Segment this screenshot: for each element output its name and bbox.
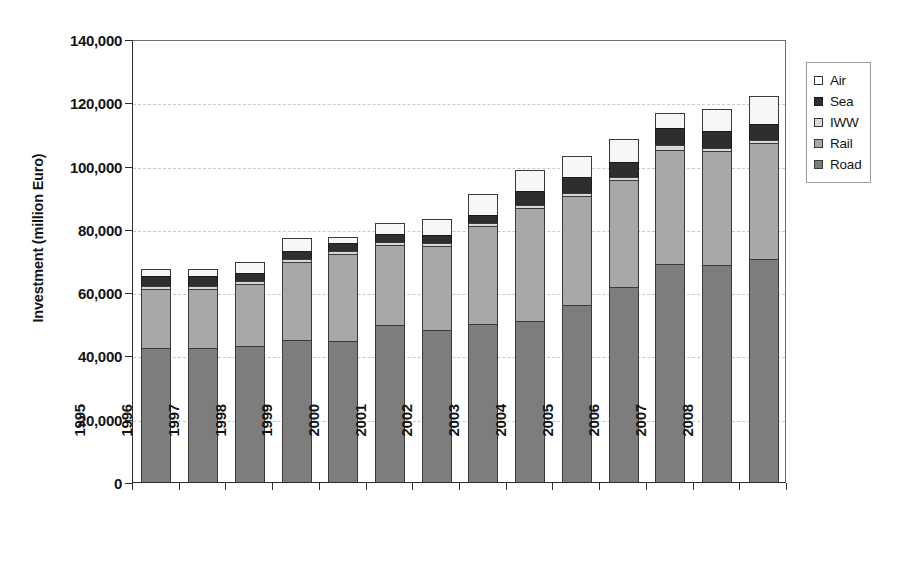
legend-item-sea[interactable]: Sea [814,91,861,112]
bar-segment-rail[interactable] [235,284,265,346]
bar-segment-sea[interactable] [515,191,545,205]
bar-segment-sea[interactable] [655,128,685,145]
x-axis-tick-label-2001: 2001 [352,404,369,494]
bar-segment-sea[interactable] [749,124,779,140]
bar-segment-rail[interactable] [422,246,452,330]
bar-segment-air[interactable] [282,238,312,251]
x-axis-tick-label-2004: 2004 [492,404,509,494]
bar-segment-rail[interactable] [562,196,592,305]
bar-segment-sea[interactable] [609,162,639,176]
bar-segment-rail[interactable] [515,208,545,320]
bar-segment-sea[interactable] [468,215,498,223]
bar-segment-air[interactable] [188,269,218,277]
legend-label: Sea [830,94,853,109]
x-axis-tick-label-2003: 2003 [445,404,462,494]
y-axis-tick-label: 120,000 [0,95,122,112]
chart-legend: AirSeaIWWRailRoad [806,62,871,183]
y-axis-tick-label: 40,000 [0,348,122,365]
x-axis-tick-label-2007: 2007 [632,404,649,494]
bar-segment-air[interactable] [609,139,639,163]
bar-2007[interactable] [702,109,732,482]
bar-segment-air[interactable] [141,269,171,277]
bar-segment-air[interactable] [702,109,732,131]
bar-segment-sea[interactable] [328,243,358,251]
legend-item-iww[interactable]: IWW [814,112,861,133]
bar-segment-rail[interactable] [749,143,779,258]
bar-segment-rail[interactable] [375,245,405,326]
bar-segment-rail[interactable] [468,226,498,324]
x-axis-tick-label-2002: 2002 [398,404,415,494]
y-axis-tick-label: 140,000 [0,32,122,49]
x-axis-tick-label-2006: 2006 [585,404,602,494]
bar-segment-air[interactable] [655,113,685,127]
y-axis-tick-label: 0 [0,475,122,492]
bar-segment-air[interactable] [468,194,498,215]
x-axis-tick-mark [739,483,740,490]
bar-segment-rail[interactable] [188,289,218,348]
bar-segment-sea[interactable] [422,235,452,243]
legend-swatch-air-icon [814,76,823,85]
bar-segment-sea[interactable] [702,131,732,148]
bar-segment-air[interactable] [235,262,265,273]
legend-item-road[interactable]: Road [814,154,861,175]
bar-segment-sea[interactable] [141,276,171,285]
bar-segment-sea[interactable] [562,177,592,193]
legend-swatch-rail-icon [814,139,823,148]
bar-segment-road[interactable] [702,265,732,482]
x-axis-tick-label-1997: 1997 [165,404,182,494]
legend-label: Road [830,157,861,172]
x-axis-tick-mark [786,483,787,490]
y-axis-tick-label: 80,000 [0,221,122,238]
x-axis-tick-label-1999: 1999 [258,404,275,494]
bar-2008[interactable] [749,96,779,482]
x-axis-tick-label-1996: 1996 [118,404,135,494]
bar-segment-rail[interactable] [328,254,358,341]
bar-segment-road[interactable] [749,259,779,482]
bar-segment-rail[interactable] [655,150,685,264]
bar-segment-air[interactable] [515,170,545,191]
bar-segment-sea[interactable] [282,251,312,259]
bar-segment-air[interactable] [562,156,592,177]
legend-swatch-iww-icon [814,118,823,127]
bar-segment-rail[interactable] [141,289,171,348]
bar-segment-rail[interactable] [609,180,639,288]
x-axis-tick-label-2000: 2000 [305,404,322,494]
y-axis-tick-label: 20,000 [0,411,122,428]
bar-segment-rail[interactable] [282,262,312,340]
legend-label: Rail [830,136,852,151]
bar-segment-sea[interactable] [235,273,265,281]
y-axis-tick-label: 100,000 [0,158,122,175]
bar-segment-sea[interactable] [375,234,405,242]
x-axis-tick-label-1998: 1998 [212,404,229,494]
legend-label: Air [830,73,846,88]
bar-segment-air[interactable] [422,219,452,235]
legend-label: IWW [830,115,859,130]
legend-item-air[interactable]: Air [814,70,861,91]
x-axis-tick-label-1995: 1995 [71,404,88,494]
bar-segment-sea[interactable] [188,276,218,285]
stacked-bar-chart: Investment (million Euro) 140,000120,000… [0,0,910,564]
legend-swatch-road-icon [814,160,823,169]
legend-swatch-sea-icon [814,97,823,106]
x-axis-tick-label-2005: 2005 [539,404,556,494]
legend-item-rail[interactable]: Rail [814,133,861,154]
bar-segment-air[interactable] [749,96,779,124]
bar-segment-air[interactable] [375,223,405,234]
bar-segment-rail[interactable] [702,151,732,265]
x-axis-tick-label-2008: 2008 [679,404,696,494]
y-axis-tick-label: 60,000 [0,285,122,302]
